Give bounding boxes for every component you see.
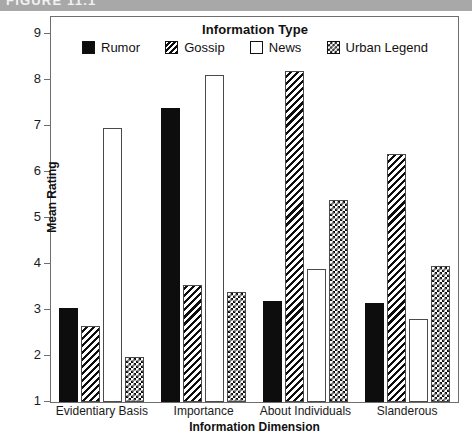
bar-urban-legend-evidentiary-basis (125, 357, 144, 402)
y-axis-tick-label: 2 (7, 347, 41, 363)
bar-news-slanderous (409, 319, 428, 402)
y-axis-tick-label: 8 (7, 71, 41, 87)
y-axis-tick-label: 4 (7, 255, 41, 271)
bar-rumor-evidentiary-basis (59, 308, 78, 402)
bar-gossip-slanderous (387, 154, 406, 402)
bar-urban-legend-importance (227, 292, 246, 402)
y-axis-tick-mark (44, 355, 50, 356)
y-axis-tick-label: 9 (7, 25, 41, 41)
bar-rumor-about-individuals (263, 301, 282, 402)
y-axis-tick-mark (44, 263, 50, 264)
bar-news-about-individuals (307, 269, 326, 402)
x-axis-tick-label: About Individuals (255, 404, 357, 418)
bar-gossip-importance (183, 285, 202, 402)
y-axis-tick-mark (44, 401, 50, 402)
y-axis-tick-label: 5 (7, 209, 41, 225)
figure-banner: FIGURE 11.1 (0, 0, 472, 11)
y-axis-tick-label: 3 (7, 301, 41, 317)
bar-urban-legend-slanderous (431, 266, 450, 402)
bar-news-importance (205, 75, 224, 402)
bar-rumor-slanderous (365, 303, 384, 402)
x-axis-title: Information Dimension (51, 420, 458, 433)
y-axis: 123456789 (0, 0, 50, 433)
y-axis-tick-mark (44, 33, 50, 34)
y-axis-tick-label: 1 (7, 393, 41, 409)
y-axis-tick-mark (44, 79, 50, 80)
x-axis-tick-label: Evidentiary Basis (51, 404, 153, 418)
bar-urban-legend-about-individuals (329, 200, 348, 402)
x-axis-tick-label: Importance (153, 404, 255, 418)
bar-news-evidentiary-basis (103, 128, 122, 402)
bar-rumor-importance (161, 108, 180, 402)
y-axis-tick-mark (44, 309, 50, 310)
y-axis-tick-label: 7 (7, 117, 41, 133)
plot-area (51, 17, 458, 402)
y-axis-tick-label: 6 (7, 163, 41, 179)
x-axis-tick-label: Slanderous (356, 404, 458, 418)
y-axis-tick-mark (44, 125, 50, 126)
bar-gossip-about-individuals (285, 71, 304, 402)
bar-gossip-evidentiary-basis (81, 326, 100, 402)
